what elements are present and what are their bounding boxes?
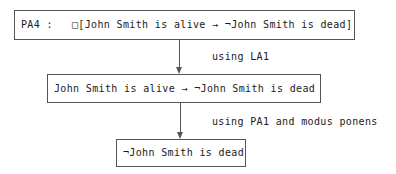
arrowhead-down-icon	[176, 67, 182, 74]
node-intermediate-label: John Smith is alive → ¬John Smith is dea…	[54, 84, 315, 94]
node-intermediate: John Smith is alive → ¬John Smith is dea…	[47, 74, 321, 103]
arrowhead-down-icon	[177, 132, 183, 139]
derivation-diagram: PA4 : □[John Smith is alive → ¬John Smit…	[0, 0, 396, 174]
edge-label-using-la1: using LA1	[212, 52, 269, 62]
node-premise: PA4 : □[John Smith is alive → ¬John Smit…	[14, 10, 355, 40]
node-conclusion: ¬John Smith is dead	[116, 139, 246, 167]
edge-shaft	[180, 103, 181, 133]
node-conclusion-label: ¬John Smith is dead	[123, 148, 244, 158]
edge-shaft	[179, 40, 180, 68]
node-premise-label: PA4 : □[John Smith is alive → ¬John Smit…	[21, 20, 352, 30]
edge-label-using-pa1-modus-ponens: using PA1 and modus ponens	[212, 117, 378, 127]
